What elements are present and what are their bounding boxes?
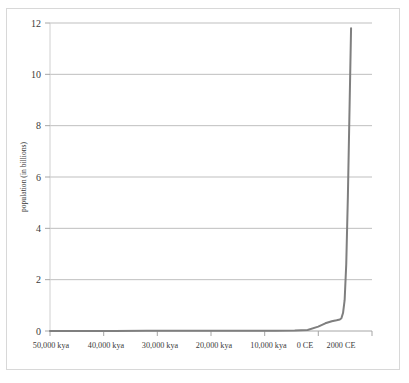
x-tick-label-30000-kya: 30,000 kya — [142, 341, 179, 350]
y-tick-label-2: 2 — [36, 274, 41, 285]
y-tick-label-0: 0 — [36, 326, 41, 337]
x-tick-label-0-ce: 0 CE — [297, 341, 314, 350]
y-tick-marks — [45, 23, 50, 331]
x-tick-label-50000-kya: 50,000 kya — [33, 341, 70, 350]
y-tick-label-4: 4 — [36, 223, 41, 234]
x-tick-label-40000-kya: 40,000 kya — [88, 341, 125, 350]
y-tick-label-10: 10 — [31, 69, 41, 80]
y-tick-labels: 12 10 8 6 4 2 0 — [31, 18, 41, 337]
line-chart: 12 10 8 6 4 2 0 50,000 kya 40,000 kya 30… — [0, 0, 409, 383]
chart-plot-area: 12 10 8 6 4 2 0 50,000 kya 40,000 kya 30… — [0, 0, 409, 383]
y-tick-label-12: 12 — [31, 18, 41, 29]
y-axis-title: population (in billions) — [19, 142, 28, 212]
x-tick-label-20000-kya: 20,000 kya — [196, 341, 233, 350]
y-tick-label-8: 8 — [36, 120, 41, 131]
x-tick-label-10000-kya: 10,000 kya — [250, 341, 287, 350]
y-tick-label-6: 6 — [36, 172, 41, 183]
population-growth-figure: 12 10 8 6 4 2 0 50,000 kya 40,000 kya 30… — [0, 0, 409, 383]
x-tick-label-2000-ce: 2000 CE — [327, 341, 356, 350]
x-tick-labels: 50,000 kya 40,000 kya 30,000 kya 20,000 … — [33, 341, 356, 350]
